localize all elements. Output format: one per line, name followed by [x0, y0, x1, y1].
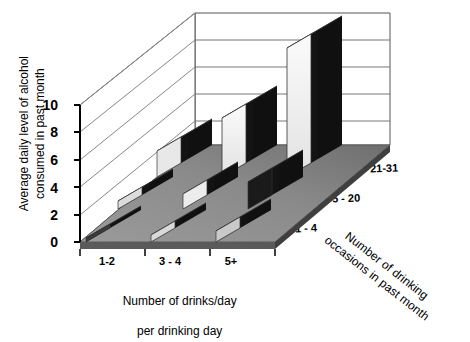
- x-axis: [80, 249, 275, 256]
- y-axis: [74, 105, 80, 242]
- x-axis-title-line2: per drinking day: [137, 324, 222, 338]
